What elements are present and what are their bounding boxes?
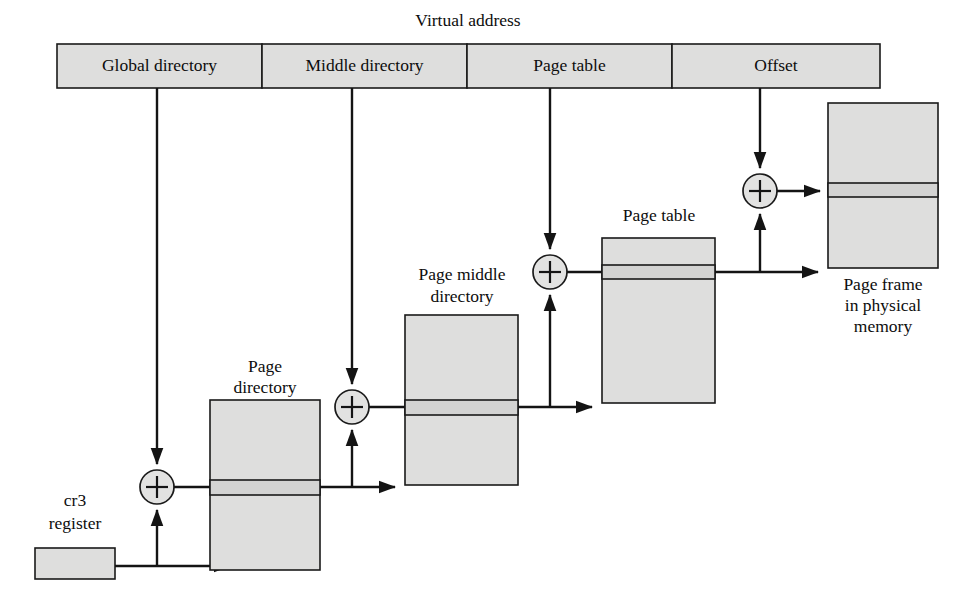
adder-4 (743, 174, 777, 208)
page-table-selected-entry (602, 265, 715, 279)
page-directory-table: Page directory (210, 356, 320, 570)
page-frame-label-line2: in physical (845, 295, 921, 315)
paging-translation-diagram: Virtual address Global directory Middle … (0, 0, 960, 607)
segment-label-offset: Offset (754, 55, 798, 75)
adder-2 (335, 390, 369, 424)
page-directory-label-line2: directory (233, 377, 296, 397)
page-middle-directory-label-line2: directory (430, 286, 493, 306)
virtual-address-bar: Global directory Middle directory Page t… (57, 44, 880, 88)
page-middle-directory-label-line1: Page middle (419, 264, 506, 284)
page-directory-selected-entry (210, 480, 320, 495)
adder-3 (533, 255, 567, 289)
page-directory-label-line1: Page (248, 356, 282, 376)
page-table-table: Page table (602, 205, 715, 403)
page-middle-directory-table: Page middle directory (405, 264, 518, 485)
cr3-register: cr3 register (35, 490, 115, 579)
page-middle-directory-selected-entry (405, 400, 518, 415)
page-frame-label-line1: Page frame (843, 274, 922, 294)
diagram-title: Virtual address (415, 10, 521, 30)
page-frame-selected-entry (828, 183, 938, 197)
segment-label-middle-directory: Middle directory (305, 55, 423, 75)
page-frame-box-group: Page frame in physical memory (828, 103, 938, 336)
paging-diagram-root: Virtual address Global directory Middle … (0, 0, 960, 607)
cr3-register-box (35, 548, 115, 579)
cr3-register-label-line2: register (49, 513, 102, 533)
page-table-label: Page table (623, 205, 696, 225)
page-table-box (602, 238, 715, 403)
segment-label-page-table: Page table (533, 55, 606, 75)
segment-label-global-directory: Global directory (102, 55, 217, 75)
adder-1 (140, 470, 174, 504)
page-frame-label-line3: memory (854, 316, 913, 336)
cr3-register-label-line1: cr3 (64, 490, 87, 510)
